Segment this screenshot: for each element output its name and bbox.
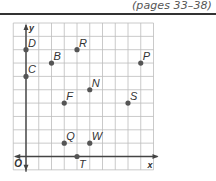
point-label: C	[28, 63, 36, 75]
coordinate-grid: xyO DRBPCNFSQWT	[0, 0, 216, 181]
x-axis-arrow-icon	[153, 154, 159, 159]
point-label: F	[66, 90, 74, 102]
point-label: S	[130, 90, 138, 102]
point-label: B	[54, 50, 61, 62]
point-label: N	[92, 77, 100, 89]
point-label: D	[28, 37, 36, 49]
y-axis-label: y	[28, 23, 35, 33]
x-axis-label: x	[147, 160, 154, 170]
y-axis-arrow-icon	[24, 24, 29, 30]
origin-label: O	[14, 158, 22, 169]
point-label: R	[79, 37, 87, 49]
point-label: W	[92, 130, 104, 142]
point-label: P	[143, 50, 151, 62]
point-label: Q	[66, 130, 75, 142]
point-label: T	[79, 158, 87, 170]
